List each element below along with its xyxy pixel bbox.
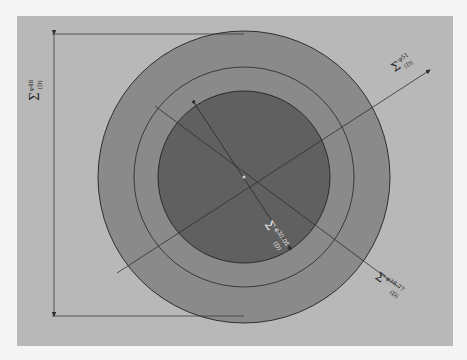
label-sup: φ48: [27, 80, 34, 92]
sigma-symbol: Σ: [28, 92, 42, 100]
center-point: [243, 176, 246, 179]
label-sub: (D): [36, 80, 43, 90]
vertical-diameter-label: Σφ48(D): [26, 80, 43, 101]
